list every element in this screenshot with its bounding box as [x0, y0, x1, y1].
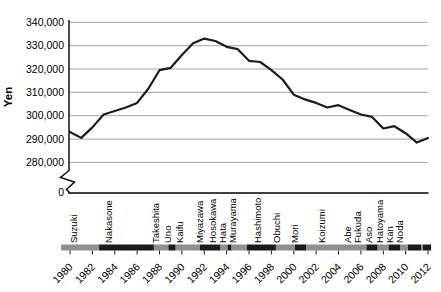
term-segment-fukuda	[378, 245, 389, 251]
pm-label-uno: Uno	[162, 226, 173, 243]
y-tick-label: 310,000	[26, 86, 64, 98]
year-label: 2008	[363, 260, 388, 285]
year-label: 1986	[117, 260, 142, 285]
year-label: 1988	[139, 260, 164, 285]
term-segment-aso	[389, 245, 400, 251]
pm-label-fukuda: Fukuda	[352, 211, 363, 243]
term-segment-hata	[228, 245, 232, 251]
pm-label-nakasone: Nakasone	[103, 200, 114, 243]
year-label: 2012	[408, 260, 433, 285]
year-label: 1998	[251, 260, 276, 285]
term-segment-hosokawa	[221, 245, 228, 251]
term-segment-uno	[168, 245, 175, 251]
term-segment-koizumi	[306, 245, 366, 251]
term-segment-takeshita	[154, 245, 169, 251]
y-tick-label: 280,000	[26, 156, 64, 168]
term-segment-nakasone	[99, 245, 154, 251]
term-segment-noda	[423, 245, 431, 251]
term-segment-kan	[408, 245, 421, 251]
pm-label-obuchi: Obuchi	[271, 213, 282, 243]
term-segment-kaifu	[176, 245, 200, 251]
line-chart-svg: 340,000330,000320,000310,000300,000290,0…	[0, 0, 441, 292]
year-label: 2002	[296, 260, 321, 285]
pm-label-noda: Noda	[394, 220, 405, 243]
year-label: 1990	[162, 260, 187, 285]
series-line	[70, 39, 428, 143]
pm-label-aso: Aso	[363, 227, 374, 243]
y-tick-label: 290,000	[26, 133, 64, 145]
pm-label-takeshita: Takeshita	[150, 202, 161, 243]
year-label: 2000	[274, 260, 299, 285]
income-by-prime-minister-chart: 340,000330,000320,000310,000300,000290,0…	[0, 0, 441, 292]
term-segment-suzuki	[61, 245, 99, 251]
pm-label-kaifu: Kaifu	[174, 221, 185, 243]
term-segment-hashimoto	[247, 245, 276, 251]
term-segment-obuchi	[276, 245, 295, 251]
year-label: 1980	[50, 260, 75, 285]
pm-label-miyazawa: Miyazawa	[194, 200, 205, 243]
term-segment-mori	[295, 245, 306, 251]
year-label: 1982	[72, 260, 97, 285]
term-segment-abe	[367, 245, 378, 251]
pm-label-koizumi: Koizumi	[316, 209, 327, 243]
year-label: 1996	[229, 260, 254, 285]
year-label: 2004	[318, 260, 343, 285]
term-segment-miyazawa	[200, 245, 221, 251]
year-label: 1994	[207, 260, 232, 285]
term-segment-murayama	[232, 245, 247, 251]
y-tick-label: 0	[58, 186, 64, 198]
year-label: 2006	[341, 260, 366, 285]
year-label: 1992	[184, 260, 209, 285]
y-axis-title: Yen	[2, 87, 14, 107]
year-label: 2010	[386, 260, 411, 285]
year-label: 1984	[95, 260, 120, 285]
chart-dynamic-layer: 340,000330,000320,000310,000300,000290,0…	[26, 16, 433, 286]
pm-label-hashimoto: Hashimoto	[252, 198, 263, 243]
y-tick-label: 300,000	[26, 109, 64, 121]
y-tick-label: 330,000	[26, 39, 64, 51]
y-tick-label: 340,000	[26, 16, 64, 28]
pm-label-murayama: Murayama	[227, 197, 238, 243]
pm-label-suzuki: Suzuki	[68, 214, 79, 243]
term-segment-divider	[421, 245, 423, 251]
y-tick-label: 320,000	[26, 63, 64, 75]
term-segment-hatoyama	[400, 245, 408, 251]
pm-label-mori: Mori	[289, 225, 300, 243]
